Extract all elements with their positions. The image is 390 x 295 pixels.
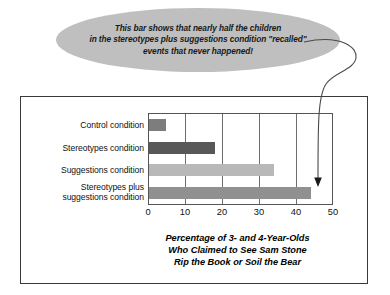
bar-suggestions-condition <box>149 164 274 176</box>
callout-line-2: in the stereotypes plus suggestions cond… <box>89 34 306 44</box>
x-axis-title: Percentage of 3- and 4-Year-Olds Who Cla… <box>130 232 345 268</box>
bar-row <box>149 159 333 182</box>
category-label-text: Stereotypes condition <box>62 143 144 153</box>
x-axis-title-line3: Rip the Book or Soil the Bear <box>130 256 345 268</box>
category-label-text-line2: suggestions condition <box>62 193 144 203</box>
category-label-stereotypes: Stereotypes condition <box>24 137 144 160</box>
bar-row <box>149 182 333 205</box>
x-axis-title-line1: Percentage of 3- and 4-Year-Olds <box>130 232 345 244</box>
category-label-suggestions: Suggestions condition <box>24 159 144 182</box>
annotation-callout-bubble: This bar shows that nearly half the chil… <box>56 8 340 72</box>
bar-series <box>149 114 333 204</box>
bar-row <box>149 137 333 160</box>
category-label-stereotypes-plus-suggestions: Stereotypes plus suggestions condition <box>24 182 144 205</box>
callout-line-1: This bar shows that nearly half the chil… <box>115 23 282 33</box>
category-axis-labels: Control condition Stereotypes condition … <box>24 114 144 204</box>
bar-row <box>149 114 333 137</box>
annotation-callout-text: This bar shows that nearly half the chil… <box>79 23 317 58</box>
callout-line-3: events that never happened! <box>143 46 253 56</box>
category-label-text: Suggestions condition <box>61 165 144 175</box>
x-tick-50: 50 <box>328 207 338 217</box>
x-tick-20: 20 <box>217 207 227 217</box>
bar-stereotypes-plus-suggestions-condition <box>149 187 311 199</box>
x-tick-40: 40 <box>291 207 301 217</box>
bar-stereotypes-condition <box>149 142 215 154</box>
category-label-text: Control condition <box>80 120 144 130</box>
x-axis-title-line2: Who Claimed to See Sam Stone <box>130 244 345 256</box>
x-axis-tick-labels: 0 10 20 30 40 50 <box>148 207 333 221</box>
category-label-control: Control condition <box>24 114 144 137</box>
x-tick-0: 0 <box>145 207 150 217</box>
x-tick-30: 30 <box>254 207 264 217</box>
x-tick-10: 10 <box>180 207 190 217</box>
bar-control-condition <box>149 119 166 131</box>
